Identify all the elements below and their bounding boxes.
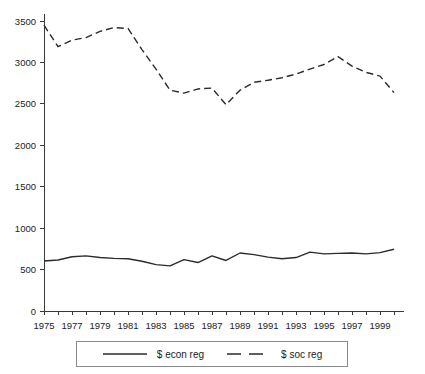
series-layer <box>44 25 394 266</box>
x-tick-label: 1987 <box>201 320 222 331</box>
x-tick-label: 1985 <box>173 320 194 331</box>
series-line-soc-reg <box>44 25 394 105</box>
x-tick-label: 1991 <box>257 320 278 331</box>
x-tick-label: 1979 <box>89 320 110 331</box>
x-tick-label: 1997 <box>341 320 362 331</box>
x-tick-label: 1977 <box>61 320 82 331</box>
legend-label-econ-reg: $ econ reg <box>157 349 204 360</box>
y-tick-label: 3500 <box>15 16 36 27</box>
y-tick-label: 2000 <box>15 140 36 151</box>
y-tick-label: 1000 <box>15 223 36 234</box>
legend-item-econ-reg[interactable]: $ econ reg <box>102 349 204 360</box>
y-axis: 0500100015002000250030003500 <box>15 14 44 317</box>
legend-item-soc-reg[interactable]: $ soc reg <box>226 349 322 360</box>
x-tick-label: 1981 <box>117 320 138 331</box>
y-tick-label: 3000 <box>15 57 36 68</box>
x-tick-label: 1975 <box>33 320 54 331</box>
legend-swatch-dashed-icon <box>226 349 272 359</box>
y-tick-label: 1500 <box>15 181 36 192</box>
chart-legend: $ econ reg $ soc reg <box>76 341 348 367</box>
x-tick-label: 1995 <box>313 320 334 331</box>
line-chart: 0500100015002000250030003500 19751977197… <box>0 0 425 374</box>
chart-plot-area: 0500100015002000250030003500 19751977197… <box>0 0 425 374</box>
y-tick-label: 0 <box>31 306 36 317</box>
x-tick-label: 1983 <box>145 320 166 331</box>
y-tick-label: 2500 <box>15 98 36 109</box>
y-tick-label: 500 <box>20 264 36 275</box>
legend-swatch-solid-icon <box>102 349 148 359</box>
x-tick-label: 1993 <box>285 320 306 331</box>
x-axis: 1975197719791981198319851987198919911993… <box>33 311 404 331</box>
x-tick-label: 1999 <box>369 320 390 331</box>
series-line-econ-reg <box>44 249 394 266</box>
legend-label-soc-reg: $ soc reg <box>281 349 322 360</box>
x-tick-label: 1989 <box>229 320 250 331</box>
